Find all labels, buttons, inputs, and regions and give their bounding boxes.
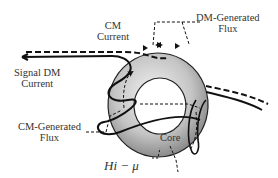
label-cmflux-line1: CM-Generated bbox=[18, 121, 81, 132]
label-cm-line2: Current bbox=[97, 31, 129, 42]
label-cm-flux: CM-Generated Flux bbox=[18, 121, 81, 143]
label-cm-line1: CM bbox=[97, 20, 129, 31]
label-core: Core bbox=[160, 132, 180, 143]
label-signal-line2: Current bbox=[14, 78, 60, 89]
label-cmflux-line2: Flux bbox=[18, 132, 81, 143]
label-dm-line1: DM-Generated bbox=[196, 12, 260, 23]
label-signal-dm: Signal DM Current bbox=[14, 67, 60, 89]
label-dm-line2: Flux bbox=[196, 23, 260, 34]
dm-flux-callout bbox=[153, 22, 200, 45]
label-hi-mu: Hi − μ bbox=[104, 160, 139, 171]
dm-flux-arrows bbox=[143, 42, 180, 51]
label-dm-flux: DM-Generated Flux bbox=[196, 12, 260, 34]
label-cm-current: CM Current bbox=[97, 20, 129, 42]
label-signal-line1: Signal DM bbox=[14, 67, 60, 78]
